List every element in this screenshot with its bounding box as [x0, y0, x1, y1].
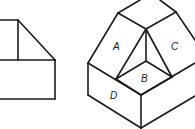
- iso-right-top-edge: [141, 63, 195, 95]
- isometric-view: A B C D: [88, 0, 195, 128]
- front-view-top-edge: [0, 20, 55, 60]
- iso-face-a-inner-edge: [116, 29, 146, 79]
- iso-face-a-outer-edge: [88, 13, 118, 63]
- face-label-c: C: [171, 41, 179, 52]
- drawing-canvas: A B C D: [0, 0, 195, 129]
- iso-ridge-left-to-peak: [118, 13, 146, 29]
- front-view: [0, 20, 55, 99]
- iso-top-back-edge-right: [160, 0, 176, 12]
- iso-top-back-edge: [118, 0, 140, 13]
- iso-face-c-outer-edge: [176, 12, 195, 40]
- face-label-d: D: [110, 90, 117, 101]
- iso-ridge-peak-to-right: [146, 12, 176, 29]
- face-label-a: A: [112, 41, 120, 52]
- face-label-b: B: [141, 73, 148, 84]
- iso-right-bottom-edge: [141, 96, 195, 128]
